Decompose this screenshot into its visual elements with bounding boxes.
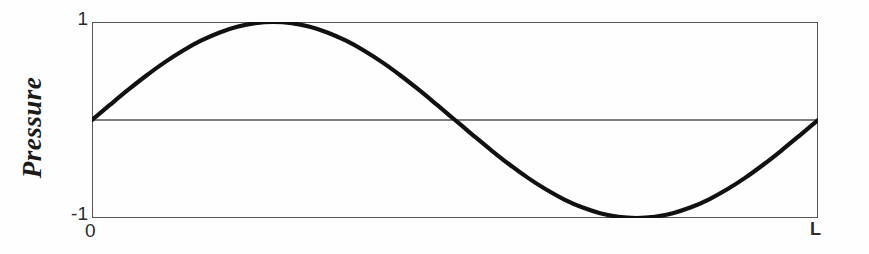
plot-canvas <box>92 22 818 218</box>
x-axis-tick-label-end: L <box>810 219 821 240</box>
x-axis-tick-label-start: 0 <box>85 220 96 242</box>
pressure-standing-wave-figure: Pressure 1 -1 0 L <box>0 0 869 254</box>
y-axis-tick-label-max: 1 <box>58 8 88 30</box>
plot-area <box>92 22 818 218</box>
y-axis-tick-label-min: -1 <box>50 203 88 225</box>
y-axis-title-label: Pressure <box>18 76 49 178</box>
